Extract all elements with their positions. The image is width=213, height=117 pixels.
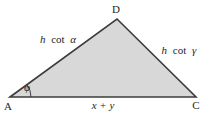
triangle-figure: D A C h cot α h cot γ x + y φ: [0, 0, 213, 117]
angle-label-phi: φ: [24, 81, 30, 93]
vertex-label-A: A: [4, 100, 12, 112]
side-label-right: h cot γ: [162, 44, 197, 56]
side-label-left: h cot α: [40, 33, 76, 45]
base-label: x + y: [91, 99, 115, 111]
triangle-shape: [10, 19, 196, 97]
vertex-label-C: C: [192, 99, 199, 111]
vertex-label-D: D: [112, 3, 120, 15]
diagram-canvas: D A C h cot α h cot γ x + y φ: [0, 0, 213, 117]
